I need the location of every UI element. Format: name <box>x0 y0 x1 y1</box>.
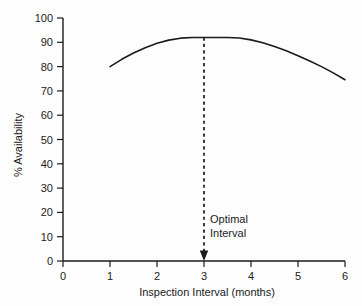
x-tick-label-5: 5 <box>295 270 301 282</box>
y-tick-label-90: 90 <box>0 36 53 48</box>
x-tick-label-6: 6 <box>342 270 348 282</box>
x-tick-label-0: 0 <box>60 270 66 282</box>
y-tick-label-70: 70 <box>0 85 53 97</box>
x-tick-label-3: 3 <box>201 270 207 282</box>
y-tick-label-60: 60 <box>0 109 53 121</box>
y-tick-label-80: 80 <box>0 61 53 73</box>
y-tick-label-10: 10 <box>0 231 53 243</box>
optimal-interval-arrowhead <box>200 251 208 262</box>
y-tick-label-50: 50 <box>0 134 53 146</box>
y-tick-label-40: 40 <box>0 158 53 170</box>
y-tick-label-100: 100 <box>0 12 53 24</box>
x-tick-label-2: 2 <box>154 270 160 282</box>
y-tick-label-30: 30 <box>0 182 53 194</box>
availability-vs-inspection-interval-chart: 100 90 80 70 60 50 40 30 20 10 0 0 1 2 3… <box>0 0 362 306</box>
x-axis-ticks <box>63 261 345 267</box>
plot-area <box>0 0 362 306</box>
y-tick-label-0: 0 <box>0 255 53 267</box>
x-tick-label-1: 1 <box>107 270 113 282</box>
y-axis-ticks <box>57 18 63 261</box>
x-axis-title: Inspection Interval (months) <box>139 286 275 298</box>
optimal-interval-label-line2: Interval <box>210 227 246 239</box>
y-tick-label-20: 20 <box>0 206 53 218</box>
optimal-interval-label-line1: Optimal <box>210 213 248 225</box>
availability-curve <box>110 37 345 79</box>
x-tick-label-4: 4 <box>248 270 254 282</box>
y-axis-title: % Availability <box>12 105 24 185</box>
